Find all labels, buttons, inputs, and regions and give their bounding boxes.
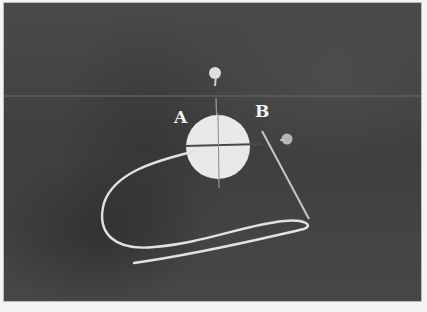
experiment-scene — [4, 3, 422, 302]
label-a: A — [174, 107, 187, 127]
top-pin — [209, 67, 221, 79]
label-b: B — [255, 101, 269, 121]
right-pin — [282, 134, 293, 145]
photo-frame: A B — [3, 2, 422, 302]
